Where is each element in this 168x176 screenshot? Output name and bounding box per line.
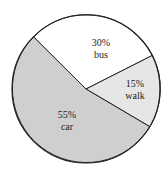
label-car-name: car — [61, 121, 74, 132]
label-car-pct: 55% — [58, 109, 76, 120]
label-bus-name: bus — [94, 49, 108, 60]
label-walk-pct: 15% — [126, 78, 144, 89]
label-bus-pct: 30% — [92, 37, 110, 48]
pie-chart: 30% bus 15% walk 55% car — [0, 0, 168, 176]
label-walk-name: walk — [125, 90, 144, 101]
